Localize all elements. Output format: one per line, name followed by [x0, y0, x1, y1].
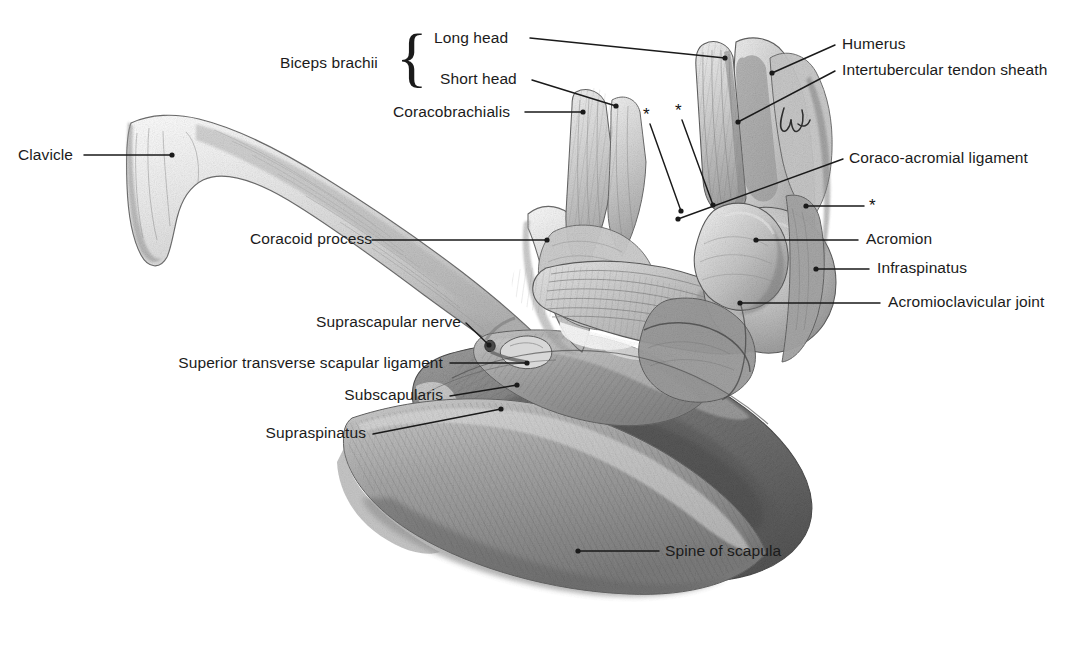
- asterisk-marker-1: *: [643, 106, 650, 123]
- label-suprascapular-nerve: Suprascapular nerve: [316, 314, 461, 330]
- brace-glyph: {: [396, 24, 428, 90]
- asterisk-marker-3: *: [869, 197, 876, 214]
- label-subscapularis: Subscapularis: [344, 387, 443, 403]
- label-intertubercular-tendon-sheath: Intertubercular tendon sheath: [842, 62, 1047, 78]
- leader-lines: [0, 0, 1079, 670]
- label-infraspinatus: Infraspinatus: [877, 260, 967, 276]
- label-clavicle: Clavicle: [18, 147, 73, 163]
- anatomy-figure: Biceps brachii { Long head Humerus Inter…: [0, 0, 1079, 670]
- label-humerus: Humerus: [842, 36, 906, 52]
- label-acromioclavicular-joint: Acromioclavicular joint: [888, 294, 1045, 310]
- label-acromion: Acromion: [866, 231, 932, 247]
- label-biceps-brachii: Biceps brachii: [280, 55, 378, 71]
- label-short-head: Short head: [440, 71, 517, 87]
- label-supraspinatus: Supraspinatus: [266, 425, 366, 441]
- label-coraco-acromial-ligament: Coraco-acromial ligament: [849, 150, 1028, 166]
- label-coracoid-process: Coracoid process: [250, 231, 372, 247]
- label-superior-transverse-scapular-ligament: Superior transverse scapular ligament: [178, 355, 443, 371]
- label-spine-of-scapula: Spine of scapula: [665, 543, 781, 559]
- asterisk-marker-2: *: [675, 102, 682, 119]
- label-long-head: Long head: [434, 30, 508, 46]
- label-coracobrachialis: Coracobrachialis: [393, 104, 510, 120]
